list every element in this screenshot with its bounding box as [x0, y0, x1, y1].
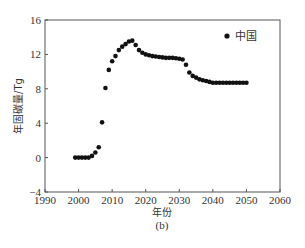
- data-point: [187, 70, 192, 75]
- x-tick-label: 2000: [68, 194, 91, 206]
- x-tick-label: 2030: [168, 194, 191, 206]
- legend-marker-icon: [224, 33, 229, 38]
- x-axis-label: 年份: [152, 206, 172, 218]
- y-tick-label: 16: [30, 14, 42, 26]
- y-tick-label: −4: [29, 186, 41, 198]
- data-point: [106, 68, 111, 73]
- data-point: [130, 38, 135, 43]
- data-point: [103, 86, 108, 91]
- data-series-china: [73, 38, 249, 160]
- data-point: [113, 54, 118, 59]
- data-point: [93, 150, 98, 155]
- data-point: [184, 62, 189, 67]
- plot-area: [45, 20, 280, 192]
- x-tick-label: 2040: [202, 194, 225, 206]
- data-point: [96, 145, 101, 150]
- data-point: [180, 57, 185, 62]
- y-axis-label: 年固碳量/Tg: [12, 78, 24, 134]
- y-tick-label: 12: [30, 48, 41, 60]
- plot-border: [45, 20, 280, 192]
- x-tick-label: 2050: [235, 194, 258, 206]
- legend: 中国: [224, 30, 257, 43]
- data-point: [133, 43, 138, 48]
- figure-subtitle: (b): [156, 219, 169, 232]
- chart-figure: 19902000201020202030204020502060−4048121…: [0, 0, 305, 248]
- data-point: [117, 48, 122, 53]
- x-tick-label: 2060: [269, 194, 292, 206]
- y-tick-label: 0: [36, 152, 42, 164]
- data-point: [110, 59, 115, 64]
- legend-label: 中国: [235, 30, 257, 43]
- data-point: [90, 154, 95, 159]
- x-tick-label: 2010: [101, 194, 124, 206]
- data-point: [244, 80, 249, 85]
- x-tick-label: 2020: [135, 194, 158, 206]
- data-point: [100, 120, 105, 125]
- y-tick-label: 4: [36, 117, 42, 129]
- y-tick-label: 8: [36, 83, 42, 95]
